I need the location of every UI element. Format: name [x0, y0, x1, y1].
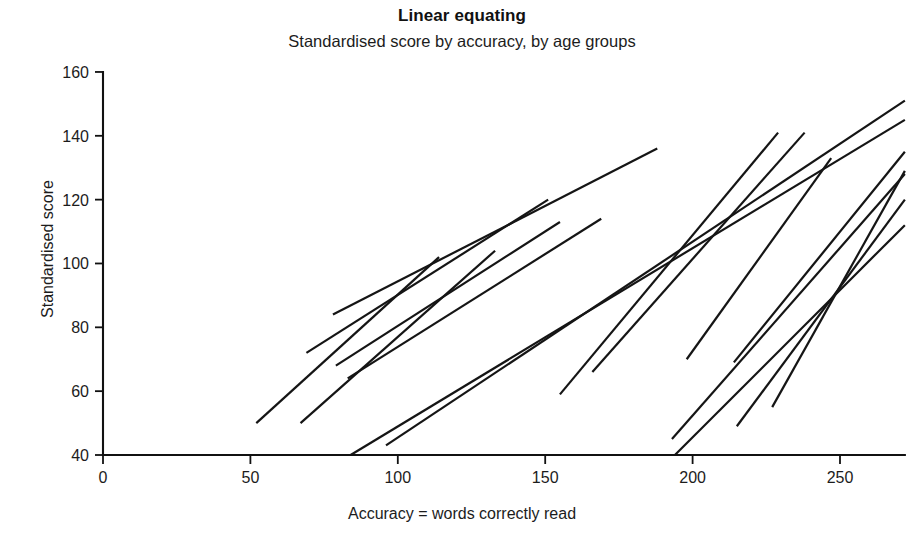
chart-figure: Linear equating Standardised score by ac…	[0, 0, 924, 541]
plot-area: 406080100120140160050100150200250	[0, 0, 924, 541]
x-tick-label: 100	[384, 469, 411, 486]
axes-group	[95, 72, 905, 464]
y-tick-label: 160	[62, 64, 89, 81]
data-line	[672, 174, 905, 439]
y-tick-label: 80	[71, 319, 89, 336]
tick-label-group: 406080100120140160050100150200250	[62, 64, 853, 486]
data-line	[386, 101, 905, 446]
x-tick-label: 250	[827, 469, 854, 486]
y-tick-label: 120	[62, 192, 89, 209]
x-tick-label: 0	[99, 469, 108, 486]
x-tick-label: 50	[242, 469, 260, 486]
data-line	[592, 133, 804, 372]
y-tick-label: 60	[71, 383, 89, 400]
data-line	[675, 225, 905, 455]
y-tick-label: 100	[62, 255, 89, 272]
x-tick-label: 200	[679, 469, 706, 486]
data-line	[256, 257, 439, 423]
data-line	[333, 149, 657, 315]
y-tick-label: 40	[71, 447, 89, 464]
data-line-group	[256, 101, 905, 455]
y-tick-label: 140	[62, 128, 89, 145]
x-tick-label: 150	[532, 469, 559, 486]
data-line	[737, 200, 905, 427]
data-line	[336, 222, 560, 366]
